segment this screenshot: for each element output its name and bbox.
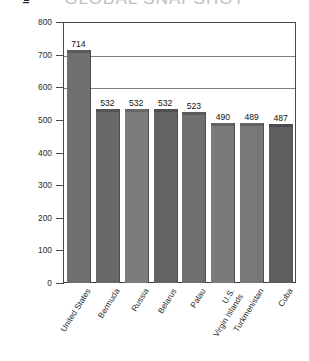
bar: 489 bbox=[240, 123, 263, 283]
bar-series: 714532532532523490489487 bbox=[64, 22, 295, 283]
y-axis-tick-label: 100 bbox=[18, 245, 52, 255]
x-axis-label: Bermuda bbox=[96, 287, 122, 320]
y-axis-tick-label: 500 bbox=[18, 115, 52, 125]
bar-body bbox=[154, 109, 178, 283]
bar-top-face bbox=[96, 109, 119, 112]
y-axis-tick-label: 300 bbox=[18, 180, 52, 190]
bar-top-face bbox=[154, 109, 177, 112]
bar-body bbox=[182, 112, 206, 283]
x-axis-label: United States bbox=[59, 287, 93, 334]
bar-top-face bbox=[182, 112, 205, 115]
bar: 523 bbox=[182, 112, 205, 283]
x-axis-label: Cuba bbox=[277, 287, 295, 309]
bar-body bbox=[125, 109, 149, 283]
bar: 532 bbox=[154, 109, 177, 283]
bar-value-label: 523 bbox=[176, 101, 211, 111]
x-axis-label: Russia bbox=[129, 287, 150, 313]
y-axis-tick-label: 400 bbox=[18, 148, 52, 158]
bar-top-face bbox=[67, 50, 90, 53]
bar: 487 bbox=[269, 124, 292, 283]
bar: 714 bbox=[67, 50, 90, 283]
y-axis-tick-label: 800 bbox=[18, 17, 52, 27]
bar-value-label: 487 bbox=[263, 113, 298, 123]
chart-title: GLOBAL SNAPSHOT bbox=[0, 0, 309, 9]
y-axis-tick-label: 700 bbox=[18, 50, 52, 60]
bar-body bbox=[67, 50, 91, 283]
x-axis-label: Belarus bbox=[157, 287, 180, 316]
bar-body bbox=[269, 124, 293, 283]
bar-top-face bbox=[269, 124, 292, 127]
bar-top-face bbox=[240, 123, 263, 126]
x-axis-label: Palau bbox=[189, 287, 208, 310]
bar-body bbox=[240, 123, 264, 283]
bar-top-face bbox=[211, 123, 234, 126]
y-axis-tick-label: 200 bbox=[18, 213, 52, 223]
bar: 532 bbox=[125, 109, 148, 283]
x-axis-labels: United StatesBermudaRussiaBelarusPalauU.… bbox=[0, 283, 309, 361]
bar: 490 bbox=[211, 123, 234, 283]
bar-body bbox=[211, 123, 235, 283]
bar: 532 bbox=[96, 109, 119, 283]
y-axis-tick-label: 600 bbox=[18, 82, 52, 92]
bar-top-face bbox=[125, 109, 148, 112]
bar-value-label: 714 bbox=[61, 39, 96, 49]
bar-body bbox=[96, 109, 120, 283]
